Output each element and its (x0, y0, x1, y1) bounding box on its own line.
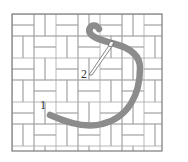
point-label-2: 2 (81, 68, 87, 80)
stitch-diagram (0, 0, 188, 162)
point-label-1: 1 (40, 99, 46, 111)
